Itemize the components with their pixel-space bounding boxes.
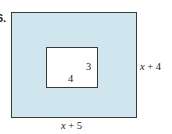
inner-width-label: 4 [68,73,73,84]
outer-height-label: x + 4 [140,61,161,72]
outer-width-label: x + 5 [61,120,82,131]
problem-number: 6. [0,12,6,24]
inner-height-label: 3 [86,61,91,72]
